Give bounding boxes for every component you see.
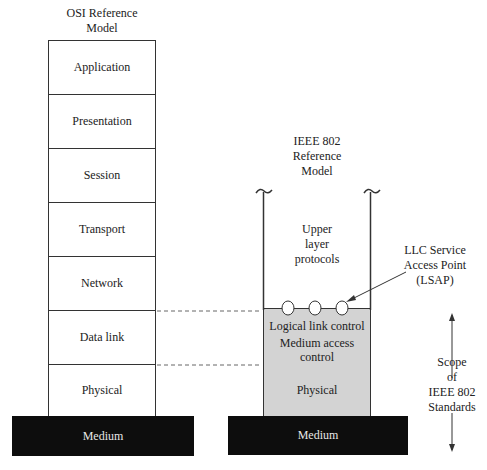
lsap-label: LLC Service Access Point (LSAP) [392,243,478,288]
scope-down-arrow-icon [449,444,455,452]
lsap-line1: LLC Service [392,243,478,258]
tilde-right-icon [364,189,380,193]
diagram-lines [0,0,487,470]
sap-circle-icon [309,301,321,315]
sap-circles [282,301,348,315]
lsap-line3: (LSAP) [392,273,478,288]
lsap-arrowhead-icon [346,295,356,302]
scope-line2: of [416,370,487,385]
scope-up-arrow-icon [449,313,455,321]
sap-circle-icon [336,301,348,315]
lsap-line2: Access Point [392,258,478,273]
scope-label: Scope of IEEE 802 Standards [416,355,487,415]
scope-line1: Scope [416,355,487,370]
sap-circle-icon [282,301,294,315]
scope-line4: Standards [416,400,487,415]
scope-line3: IEEE 802 [416,385,487,400]
